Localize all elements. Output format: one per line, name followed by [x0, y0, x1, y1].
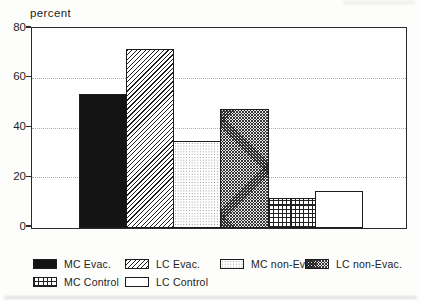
bar-mc-control	[268, 198, 316, 228]
y-tick-label-60: 60	[2, 70, 26, 82]
white-swatch	[125, 277, 149, 287]
legend-item-mc-evac: MC Evac.	[33, 258, 111, 270]
y-tick-mark-60	[26, 76, 31, 77]
bar-lc-control	[315, 191, 363, 228]
y-tick-label-80: 80	[2, 21, 26, 33]
chart-stage: percent 020406080 MC Evac.LC Evac.MC non…	[0, 0, 421, 301]
scan-artifact-top	[343, 1, 415, 4]
y-tick-label-40: 40	[2, 120, 26, 132]
y-tick-mark-80	[26, 26, 31, 27]
light-dots-swatch	[220, 259, 244, 269]
bar-mc-non-evac	[173, 141, 221, 228]
legend-label: MC Evac.	[64, 258, 111, 270]
legend-label: MC Control	[64, 276, 119, 288]
legend-label: LC non-Evac.	[336, 258, 402, 270]
y-tick-mark-20	[26, 176, 31, 177]
legend-label: LC Control	[156, 276, 208, 288]
solid-black-swatch	[33, 259, 57, 269]
bar-lc-evac	[126, 49, 174, 228]
diagonal-hatch-swatch	[125, 259, 149, 269]
grid-check-swatch	[33, 277, 57, 287]
y-axis-title: percent	[30, 7, 71, 19]
y-tick-mark-40	[26, 126, 31, 127]
y-tick-label-20: 20	[2, 170, 26, 182]
bar-mc-evac	[79, 94, 127, 228]
legend-item-lc-non-evac: LC non-Evac.	[305, 258, 402, 270]
plot-area	[31, 27, 407, 229]
legend-label: LC Evac.	[156, 258, 200, 270]
y-tick-mark-0	[26, 225, 31, 226]
gridline-60	[32, 78, 406, 79]
dense-mesh-swatch	[305, 259, 329, 269]
scan-artifact-bottom	[4, 296, 417, 299]
legend-item-mc-control: MC Control	[33, 276, 119, 288]
legend-item-lc-control: LC Control	[125, 276, 208, 288]
y-tick-label-0: 0	[2, 220, 26, 232]
legend-item-lc-evac: LC Evac.	[125, 258, 200, 270]
bar-lc-non-evac	[220, 109, 268, 228]
